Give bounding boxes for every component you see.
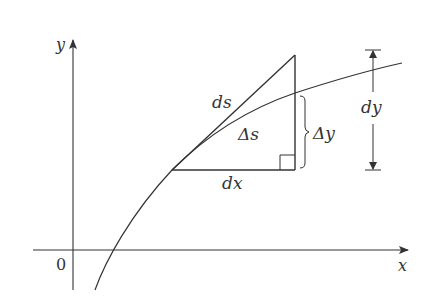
dy-label: dy <box>361 97 382 117</box>
curve <box>95 63 402 290</box>
ds-label: ds <box>212 92 232 112</box>
origin-label: 0 <box>56 255 66 274</box>
delta-y-brace <box>300 96 309 168</box>
tangent-line-ds <box>172 55 295 170</box>
arc-length-diagram: y x 0 ds Δs Δy dx dy <box>0 0 443 301</box>
x-axis-label: x <box>398 256 407 275</box>
dx-label: dx <box>222 173 243 193</box>
right-angle-marker <box>280 155 295 170</box>
y-axis-label: y <box>55 35 66 54</box>
delta-y-label: Δy <box>312 123 335 143</box>
delta-s-label: Δs <box>237 124 259 144</box>
